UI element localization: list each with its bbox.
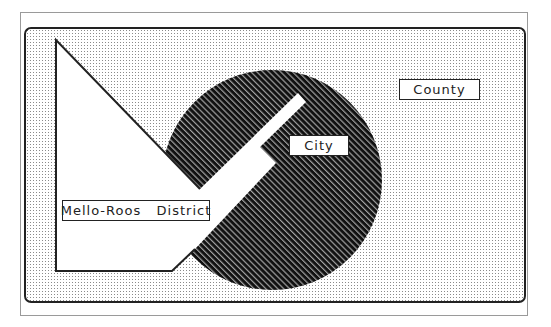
diagram-canvas — [0, 0, 551, 327]
mello-roos-district-label: Mello-Roos District — [62, 200, 210, 221]
city-label: City — [289, 135, 349, 156]
county-label: County — [399, 79, 480, 100]
city-region — [162, 70, 382, 290]
